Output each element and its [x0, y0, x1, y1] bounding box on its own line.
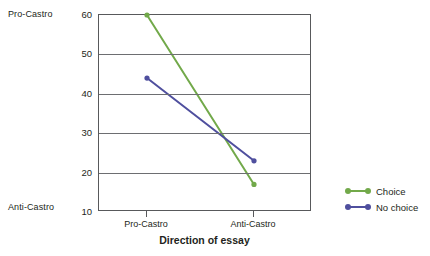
y-tick-label-30: 30 [63, 127, 92, 138]
y-tick-label-60: 60 [63, 9, 92, 20]
legend-swatch-icon [345, 202, 371, 212]
gridline-40 [99, 94, 310, 95]
y-tick-label-10: 10 [63, 206, 92, 217]
y-tick-label-50: 50 [63, 48, 92, 59]
data-point [251, 158, 256, 163]
y-axis-top-category-label: Pro-Castro [8, 9, 53, 19]
legend-item-choice: Choice [345, 183, 430, 199]
y-axis-tick-labels: 605040302010 [63, 0, 92, 256]
gridline-30 [99, 133, 310, 134]
data-point [251, 182, 256, 187]
gridline-50 [99, 54, 310, 55]
legend-label: Choice [376, 186, 406, 197]
x-tick-label-0: Pro-Castro [124, 219, 168, 229]
legend-item-no-choice: No choice [345, 199, 430, 215]
legend-label: No choice [376, 202, 418, 213]
legend-swatch-icon [345, 186, 371, 196]
data-point [144, 75, 149, 80]
series-overlay [99, 15, 312, 212]
series-line [147, 15, 254, 184]
series-no-choice [144, 75, 256, 163]
y-axis-bottom-category-label: Anti-Castro [8, 202, 54, 212]
series-choice [144, 12, 256, 187]
plot-area [98, 14, 311, 211]
x-tick-mark-1 [253, 211, 254, 217]
data-point [144, 12, 149, 17]
y-tick-label-20: 20 [63, 166, 92, 177]
x-axis-title: Direction of essay [98, 234, 311, 246]
attitude-estimate-line-chart: Pro-Castro Anti-Castro Estimate of essay… [0, 0, 430, 256]
x-tick-label-1: Anti-Castro [230, 219, 275, 229]
x-tick-mark-0 [146, 211, 147, 217]
gridline-20 [99, 173, 310, 174]
legend: ChoiceNo choice [345, 183, 430, 215]
y-tick-label-40: 40 [63, 87, 92, 98]
series-line [147, 78, 254, 161]
